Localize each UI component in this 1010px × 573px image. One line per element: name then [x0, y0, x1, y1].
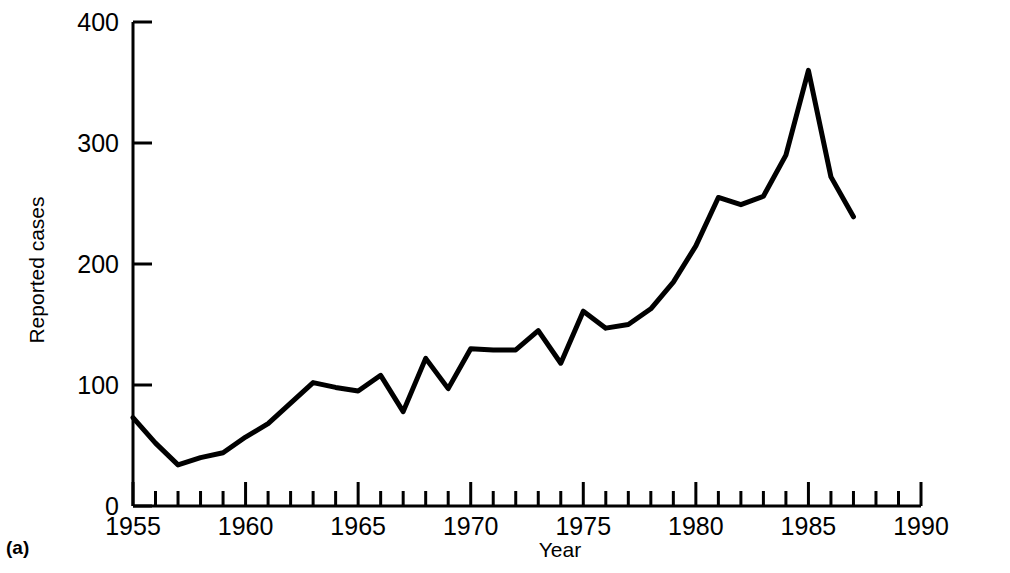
x-tick-label: 1965 — [330, 512, 386, 540]
x-tick-label: 1985 — [781, 512, 837, 540]
x-tick-label: 1990 — [893, 512, 949, 540]
x-tick-label: 1970 — [443, 512, 499, 540]
y-tick-label: 400 — [77, 8, 119, 36]
y-tick-label: 200 — [77, 250, 119, 278]
x-axis-title: Year — [539, 538, 581, 561]
x-tick-label: 1975 — [555, 512, 611, 540]
chart-background — [0, 0, 1010, 573]
panel-label: (a) — [6, 537, 29, 559]
y-tick-label: 300 — [77, 129, 119, 157]
x-tick-label: 1960 — [218, 512, 274, 540]
figure-panel: 0100200300400 19551960196519701975198019… — [0, 0, 1010, 573]
x-tick-label: 1955 — [105, 512, 161, 540]
x-tick-label: 1980 — [668, 512, 724, 540]
y-tick-label: 100 — [77, 371, 119, 399]
y-axis-title: Reported cases — [25, 196, 48, 343]
line-chart: 0100200300400 19551960196519701975198019… — [0, 0, 1010, 573]
